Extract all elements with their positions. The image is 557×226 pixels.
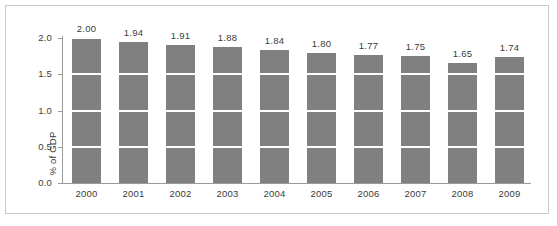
bar-slot <box>486 30 533 183</box>
bar-value-label: 2.00 <box>63 23 110 34</box>
bar-slot <box>298 30 345 183</box>
y-axis-tick-label: 2.0 <box>0 32 52 43</box>
x-axis-tick-label: 2002 <box>157 188 204 199</box>
bar-slot <box>251 30 298 183</box>
y-axis-tick-label: 0.5 <box>0 141 52 152</box>
bar[interactable] <box>166 45 195 183</box>
bar-chart-figure: % of GDP 0.00.51.01.52.0 200020012002200… <box>0 0 557 226</box>
bar[interactable] <box>213 47 242 183</box>
bar-slot <box>157 30 204 183</box>
bar-slot <box>63 30 110 183</box>
bar-value-label: 1.75 <box>392 41 439 52</box>
gridline <box>63 110 531 112</box>
x-axis-line <box>62 183 531 184</box>
x-axis-tick-label: 2001 <box>110 188 157 199</box>
x-axis-tick-label: 2000 <box>63 188 110 199</box>
gridline <box>63 73 531 75</box>
bar-value-label: 1.84 <box>251 35 298 46</box>
y-axis-tick-label: 1.0 <box>0 105 52 116</box>
bar-value-label: 1.91 <box>157 30 204 41</box>
bar[interactable] <box>260 50 289 183</box>
y-axis-tick-label: 0.0 <box>0 177 52 188</box>
x-axis-tick-label: 2009 <box>486 188 533 199</box>
bar[interactable] <box>448 63 477 183</box>
x-axis-tick-label: 2005 <box>298 188 345 199</box>
bar-slot <box>204 30 251 183</box>
bar[interactable] <box>495 57 524 183</box>
bar-value-label: 1.65 <box>439 48 486 59</box>
bar-value-label: 1.74 <box>486 42 533 53</box>
bar[interactable] <box>119 42 148 183</box>
bar-value-label: 1.80 <box>298 38 345 49</box>
bar-value-label: 1.88 <box>204 32 251 43</box>
x-axis-tick-label: 2008 <box>439 188 486 199</box>
y-axis-tick-label: 1.5 <box>0 68 52 79</box>
bar[interactable] <box>307 53 336 184</box>
bar-slot <box>345 30 392 183</box>
bar-slot <box>110 30 157 183</box>
x-axis-tick-label: 2003 <box>204 188 251 199</box>
bar-value-label: 1.77 <box>345 40 392 51</box>
x-axis-tick-label: 2007 <box>392 188 439 199</box>
gridline <box>63 146 531 148</box>
x-axis-tick-label: 2004 <box>251 188 298 199</box>
bar-slot <box>392 30 439 183</box>
bar-value-label: 1.94 <box>110 27 157 38</box>
x-axis-tick-label: 2006 <box>345 188 392 199</box>
